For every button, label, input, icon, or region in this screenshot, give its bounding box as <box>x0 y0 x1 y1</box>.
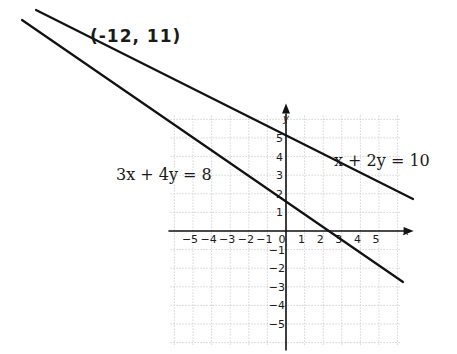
equation-label-line2: 3x + 4y = 8 <box>116 165 212 184</box>
y-tick-label: −1 <box>269 244 285 257</box>
x-tick-label: −4 <box>200 233 216 246</box>
y-tick-label: −2 <box>269 262 285 275</box>
graph-figure: −5−4−3−2−101234512345−1−2−3−4−5 (-12, 11… <box>0 0 457 354</box>
x-axis-label: x <box>402 226 409 237</box>
y-axis-label: y <box>282 113 290 124</box>
x-tick-label: 5 <box>373 233 380 246</box>
y-tick-label: −3 <box>269 281 285 294</box>
y-tick-label: −4 <box>269 299 285 312</box>
y-tick-label: −5 <box>269 318 285 331</box>
x-tick-label: 4 <box>354 233 361 246</box>
y-tick-label: 1 <box>276 206 283 219</box>
x-tick-label: 2 <box>317 233 324 246</box>
intersection-label: (-12, 11) <box>90 26 181 46</box>
y-tick-label: 4 <box>276 151 283 164</box>
x-tick-label: −3 <box>219 233 235 246</box>
axes <box>168 103 413 350</box>
x-tick-label: −2 <box>238 233 254 246</box>
equation-label-line1: x + 2y = 10 <box>334 151 430 170</box>
y-axis-arrow-icon <box>282 103 290 113</box>
x-tick-label: 1 <box>298 233 305 246</box>
y-tick-label: 3 <box>276 169 283 182</box>
x-tick-label: −5 <box>182 233 198 246</box>
coordinate-plane: −5−4−3−2−101234512345−1−2−3−4−5 (-12, 11… <box>0 0 457 354</box>
